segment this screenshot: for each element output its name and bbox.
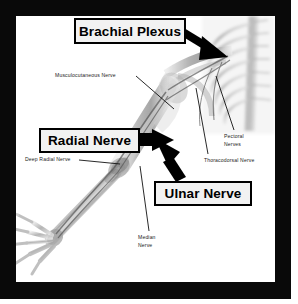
label-median-line-2: Nerve <box>138 242 168 250</box>
label-musculocutaneous-nerve: Musculocutaneous Nerve <box>55 72 116 80</box>
hand-skeleton <box>16 210 67 274</box>
label-pectoral-line-1: Pectoral <box>224 133 260 141</box>
label-thoracodorsal-nerve: Thoracodorsal Nerve <box>204 157 254 165</box>
label-pectoral-nerves: Pectoral Nerves <box>224 133 260 148</box>
callout-ulnar-nerve[interactable]: Ulnar Nerve <box>154 181 252 206</box>
label-median-line-1: Median <box>138 234 168 242</box>
ribcage <box>202 16 275 134</box>
image-frame: Musculocutaneous Nerve Deep Radial Nerve… <box>0 0 291 299</box>
callout-brachial-plexus[interactable]: Brachial Plexus <box>74 18 186 44</box>
label-pectoral-line-2: Nerves <box>224 141 260 149</box>
callout-radial-nerve[interactable]: Radial Nerve <box>39 128 140 153</box>
label-median-nerve: Median Nerve <box>138 234 168 249</box>
figure-canvas: Musculocutaneous Nerve Deep Radial Nerve… <box>16 16 275 282</box>
label-deep-radial-nerve: Deep Radial Nerve <box>25 156 71 164</box>
